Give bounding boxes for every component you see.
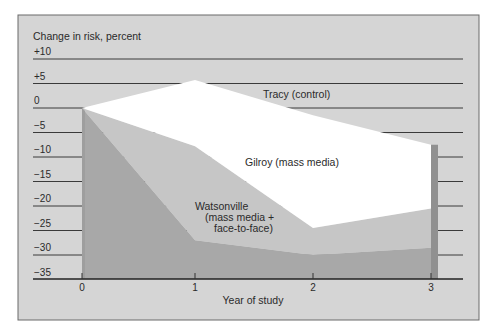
chart: +10+50−5−10−15−20−25−30−35 0123 Change i… [0,0,495,331]
y-tick-label: −5 [34,120,46,131]
y-tick-label: −10 [34,144,51,155]
y-tick-label: −35 [34,267,51,278]
y-tick-label: −20 [34,193,51,204]
y-axis-title: Change in risk, percent [33,30,141,42]
y-tick-label: −15 [34,169,51,180]
x-tick-label: 0 [79,282,85,293]
y-tick-label: +10 [34,46,51,57]
area-right-edge [431,145,438,279]
series-label-tracy: Tracy (control) [263,88,330,100]
x-tick-label: 1 [192,282,198,293]
x-tick-label: 3 [428,282,434,293]
y-tick-label: +5 [34,71,46,82]
series-label-watsonville-line3: face-to-face) [214,222,273,234]
area-left-edge [82,108,85,279]
x-tick-label: 2 [310,282,316,293]
x-axis-title: Year of study [223,294,285,306]
y-tick-label: 0 [34,95,40,106]
y-tick-label: −30 [34,242,51,253]
y-tick-label: −25 [34,218,51,229]
series-label-gilroy: Gilroy (mass media) [245,156,339,168]
